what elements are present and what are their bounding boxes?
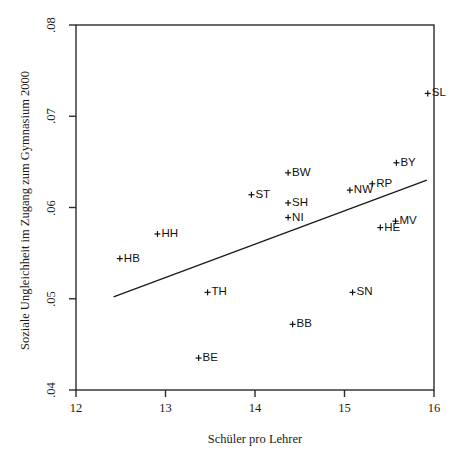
point-label: MV <box>400 215 417 226</box>
y-tick-label: .06 <box>45 195 57 221</box>
data-point <box>290 321 296 327</box>
point-label: TH <box>212 286 227 297</box>
data-point <box>393 160 399 166</box>
y-axis-ticks <box>69 25 76 390</box>
y-axis-title: Soziale Ungleichheit im Zugang zum Gymna… <box>16 23 34 398</box>
point-label: ST <box>255 189 270 200</box>
scatter-plot-figure: Soziale Ungleichheit im Zugang zum Gymna… <box>0 0 461 467</box>
data-point <box>377 225 383 231</box>
y-tick-label: .05 <box>45 286 57 312</box>
data-point <box>285 200 291 206</box>
point-label: BB <box>297 318 312 329</box>
point-label: BW <box>292 167 311 178</box>
x-axis-ticks <box>76 390 434 397</box>
point-label: SH <box>292 197 308 208</box>
x-tick-label: 13 <box>153 402 179 414</box>
y-tick-label: .08 <box>45 12 57 38</box>
y-axis-title-text: Soziale Ungleichheit im Zugang zum Gymna… <box>16 23 34 398</box>
point-label: HB <box>124 253 140 264</box>
plot-canvas <box>0 0 461 467</box>
data-point <box>285 215 291 221</box>
y-tick-label: .07 <box>45 103 57 129</box>
data-point <box>154 231 160 237</box>
point-label: SL <box>432 87 446 98</box>
data-point <box>285 170 291 176</box>
point-label: NI <box>292 212 304 223</box>
data-point <box>347 187 353 193</box>
data-point <box>117 256 123 262</box>
point-label: SN <box>357 286 373 297</box>
x-tick-label: 14 <box>242 402 268 414</box>
point-label: HH <box>161 228 178 239</box>
data-point <box>425 90 431 96</box>
data-point <box>248 192 254 198</box>
data-point <box>205 289 211 295</box>
point-label: NW <box>354 184 373 195</box>
x-tick-label: 15 <box>332 402 358 414</box>
point-label: RP <box>376 178 392 189</box>
y-tick-label: .04 <box>45 377 57 403</box>
plot-frame <box>76 25 434 390</box>
x-tick-label: 16 <box>421 402 447 414</box>
data-point <box>350 289 356 295</box>
x-axis-title: Schüler pro Lehrer <box>76 432 434 447</box>
point-label: BY <box>400 157 415 168</box>
point-label: BE <box>203 352 218 363</box>
x-tick-label: 12 <box>63 402 89 414</box>
point-label: HE <box>384 222 400 233</box>
data-point <box>196 355 202 361</box>
